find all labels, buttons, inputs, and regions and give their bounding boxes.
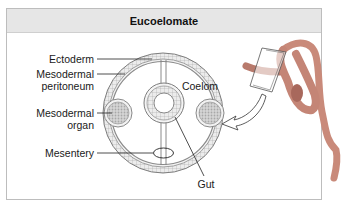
label-gut: Gut [192,178,220,190]
earthworm-illustration [222,43,337,178]
cross-section-illustration [0,0,347,209]
label-mesentery: Mesentery [14,147,94,159]
label-coelom: Coelom [176,80,224,92]
label-ectoderm: Ectoderm [24,53,94,65]
mesodermal-organ-right [196,99,224,127]
label-mesodermal-organ-line1: Mesodermal [14,107,94,119]
label-mesodermal-peritoneum-line2: peritoneum [14,80,94,92]
label-mesodermal-peritoneum-line1: Mesodermal [14,68,94,80]
label-mesodermal-organ-line2: organ [14,119,94,131]
